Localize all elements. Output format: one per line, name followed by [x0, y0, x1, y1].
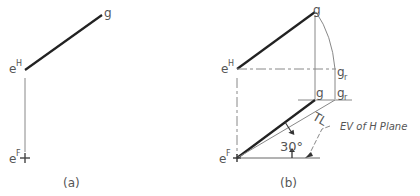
label-gr-low-sub: r — [344, 93, 348, 102]
angle-arrowhead-top — [288, 130, 296, 137]
annotation-arrowhead — [305, 152, 313, 158]
label-e-h-sup: H — [228, 59, 234, 68]
line-eg-top-view — [237, 12, 315, 69]
line-eg-front-view — [237, 100, 315, 158]
caption-a: (a) — [63, 176, 80, 190]
panel-b: g e H g r g g r TL 30° e F EV of H Plane… — [219, 3, 407, 190]
label-g: g — [104, 6, 112, 20]
label-angle: 30° — [280, 139, 303, 154]
panel-a: g e H e F (a) — [9, 6, 112, 190]
label-gr-mid-sub: r — [344, 73, 348, 82]
annotation-leader — [308, 126, 330, 157]
label-g-low: g — [316, 86, 324, 100]
annotation-ev-h-plane: EV of H Plane — [340, 121, 407, 132]
label-e-h-sup: H — [16, 59, 22, 68]
label-true-length: TL — [309, 109, 329, 129]
label-e-f-sup: F — [226, 149, 231, 158]
label-e-f-sup: F — [16, 149, 21, 158]
revolution-arc — [316, 12, 335, 69]
diagram-canvas: g e H e F (a) — [0, 0, 420, 196]
line-eg-top-view — [25, 15, 102, 70]
caption-b: (b) — [280, 176, 297, 190]
label-g-top: g — [313, 3, 321, 17]
